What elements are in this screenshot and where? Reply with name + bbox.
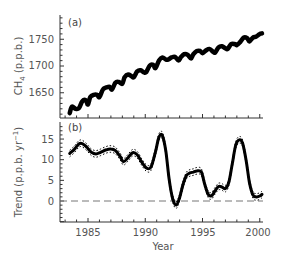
- panel-b-ytick-15: 15: [41, 134, 54, 145]
- panel-b-ylabel-sup: −1: [12, 131, 20, 141]
- xtick-1995: 1995: [190, 227, 215, 238]
- panel-b-ylabel-main: Trend (p.p.b. yr: [13, 140, 24, 218]
- panel-b-ytick-0: 0: [48, 196, 54, 207]
- panel-a-x-ticks: [65, 114, 260, 118]
- panel-b-ylabel-rest: ): [13, 127, 24, 131]
- panel-b-x-ticks: [65, 218, 260, 222]
- panel-b-y-axis-title: Trend (p.p.b. yr−1): [12, 127, 24, 219]
- figure: (a) 1650 1700 1750 CH4 (p.p.b.) (b) 0 5 …: [0, 0, 285, 261]
- panel-b: (b) 0 5 10 15 Trend (p.p.b. yr−1) 1985 1…: [12, 122, 271, 252]
- panel-b-ytick-10: 10: [41, 154, 54, 165]
- xtick-1985: 1985: [75, 227, 100, 238]
- panel-a-y-minor-ticks: [60, 18, 64, 114]
- panel-a-ytick-1700: 1700: [29, 60, 54, 71]
- panel-a-ylabel-main: CH: [13, 81, 24, 96]
- panel-a-label: (a): [68, 17, 82, 28]
- xtick-1990: 1990: [133, 227, 158, 238]
- panel-a: (a) 1650 1700 1750 CH4 (p.p.b.): [13, 15, 263, 118]
- panel-b-y-minor-ticks: [60, 127, 64, 222]
- panel-a-ytick-1750: 1750: [29, 34, 54, 45]
- panel-b-ytick-5: 5: [48, 175, 54, 186]
- panel-a-y-axis-title: CH4 (p.p.b.): [13, 37, 27, 96]
- x-axis-title: Year: [151, 241, 174, 252]
- panel-a-ylabel-rest: (p.p.b.): [13, 37, 24, 77]
- trend-series-line: [70, 134, 262, 205]
- panel-b-label: (b): [68, 122, 82, 133]
- xtick-2000: 2000: [245, 227, 270, 238]
- panel-a-ytick-1650: 1650: [29, 87, 54, 98]
- ch4-series-line: [70, 33, 262, 113]
